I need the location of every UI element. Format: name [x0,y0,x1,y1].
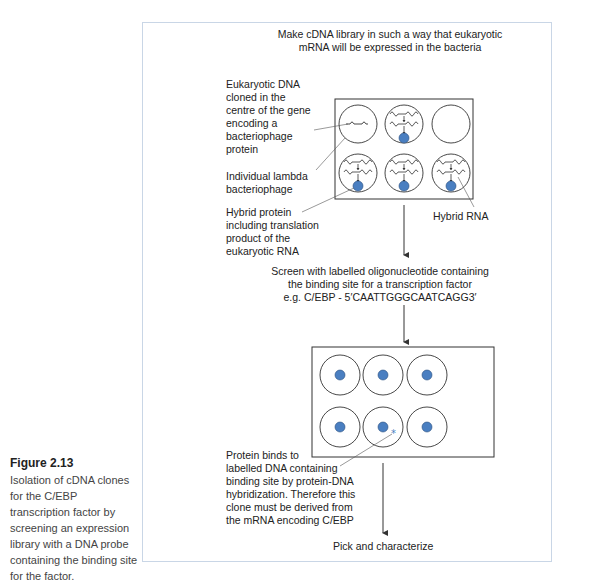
plaque-empty [432,105,470,143]
protein-dot [446,181,456,191]
diagram-graphics: * [0,0,601,588]
plate-library [335,99,473,199]
label-star-icon: * [391,428,396,439]
protein-dot [399,181,409,191]
plate-screened: * [312,347,494,457]
protein-dot [353,181,363,191]
protein-dot [399,133,409,143]
